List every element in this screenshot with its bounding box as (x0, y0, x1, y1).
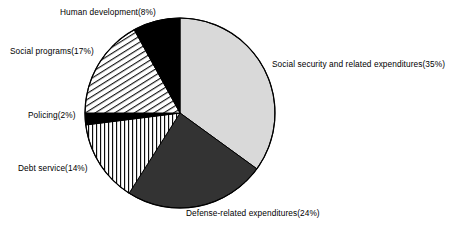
pie-slices-group (85, 18, 275, 208)
slice-label-debt-service: Debt service(14%) (18, 164, 88, 173)
slice-label-defense: Defense-related expenditures(24%) (186, 209, 320, 218)
slice-label-social-programs: Social programs(17%) (10, 47, 94, 56)
slice-label-policing: Policing(2%) (28, 111, 76, 120)
pie-chart-figure: Social security and related expenditures… (0, 0, 454, 234)
slice-label-social-security: Social security and related expenditures… (272, 60, 445, 69)
slice-label-human-development: Human development(8%) (60, 8, 156, 17)
